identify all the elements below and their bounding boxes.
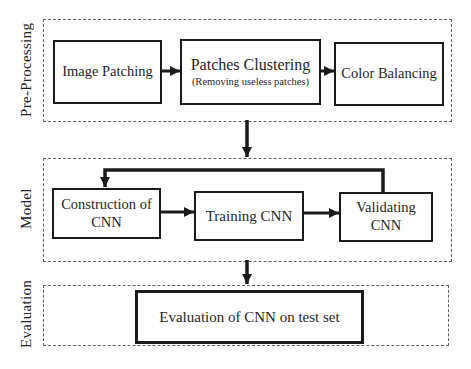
evaluation-cnn-node: Evaluation of CNN on test set — [135, 290, 364, 344]
validating-cnn-node: Validating CNN — [339, 192, 433, 242]
evaluation-cnn-node-label: Evaluation of CNN on test set — [159, 308, 339, 326]
image-patching-node-label: Image Patching — [62, 63, 153, 81]
validating-cnn-node-label: Validating CNN — [341, 199, 431, 234]
construction-cnn-node-label: Construction of CNN — [54, 196, 159, 231]
image-patching-node: Image Patching — [53, 40, 162, 104]
preprocessing-label: Pre-Processing — [12, 19, 40, 120]
training-cnn-node: Training CNN — [194, 191, 304, 241]
evaluation-label: Evaluation — [12, 283, 40, 346]
patches-clustering-node-label: Patches Clustering — [191, 55, 311, 75]
color-balancing-node-label: Color Balancing — [341, 65, 436, 83]
construction-cnn-node: Construction of CNN — [52, 188, 161, 239]
model-label: Model — [12, 158, 40, 260]
training-cnn-node-label: Training CNN — [206, 207, 293, 225]
patches-clustering-node-sublabel: (Removing useless patches) — [192, 76, 309, 89]
flow-diagram: Pre-Processing Model Evaluation Image Pa… — [0, 0, 471, 369]
patches-clustering-node: Patches Clustering (Removing useless pat… — [180, 39, 321, 105]
color-balancing-node: Color Balancing — [334, 42, 444, 106]
